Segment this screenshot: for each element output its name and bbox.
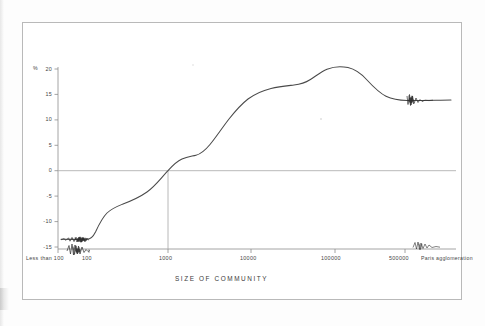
y-tick-label-minus10: -10	[38, 218, 52, 224]
figure-frame: % 20 15 10 5 0 -5 -10 -15 Less than 100 …	[22, 22, 462, 300]
scan-speck	[192, 64, 193, 65]
scan-speck	[320, 118, 322, 120]
scan-edge-artifact-left	[0, 0, 4, 326]
page-canvas: % 20 15 10 5 0 -5 -10 -15 Less than 100 …	[0, 0, 485, 326]
x-tick-label-100: 100	[82, 255, 92, 261]
y-axis-ticks	[55, 69, 59, 247]
x-tick-label-1000: 1000	[159, 255, 172, 261]
y-tick-label-20: 20	[38, 66, 52, 72]
x-tick-label-500000: 500000	[389, 255, 409, 261]
x-tick-label-less-than-100: Less than 100	[26, 255, 64, 261]
y-tick-label-minus15: -15	[38, 244, 52, 250]
x-axis-ticks	[58, 249, 405, 253]
handdrawn-scribble-left-plateau	[61, 237, 89, 243]
handdrawn-scribble-below-axis	[67, 244, 90, 255]
y-tick-label-15: 15	[38, 91, 52, 97]
y-tick-label-0: 0	[38, 167, 52, 173]
x-tick-label-10000: 10000	[240, 255, 257, 261]
x-axis-title: SIZE OF COMMUNITY	[175, 275, 268, 282]
y-tick-label-5: 5	[38, 142, 52, 148]
y-tick-label-minus5: -5	[38, 193, 52, 199]
scan-smudge-artifact	[0, 288, 9, 310]
handdrawn-scribble-paris-axis	[413, 242, 440, 250]
x-annotation-paris-agglomeration: Paris agglomeration	[421, 255, 473, 261]
y-tick-label-10: 10	[38, 116, 52, 122]
data-curve	[61, 67, 451, 240]
x-tick-label-100000: 100000	[321, 255, 341, 261]
